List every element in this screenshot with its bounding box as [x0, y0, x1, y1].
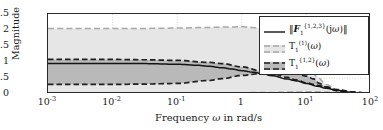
- legend-label-t1-1: T1(1)(ω): [289, 41, 321, 51]
- y-axis-label: Magnitude: [10, 0, 21, 72]
- legend-item-t1-12: T1{1,2}(ω): [263, 54, 364, 71]
- x-tick-label: 1: [213, 96, 269, 107]
- y-tick-label: 1.5: [0, 40, 9, 50]
- legend-item-f1: ‖F1{1,2,3}(jω)‖: [263, 20, 364, 37]
- x-axis-label: Frequency ω in rad/s: [47, 112, 370, 123]
- x-tick-label: 10-1: [148, 96, 204, 107]
- x-tick-label: 10-3: [19, 96, 75, 107]
- y-tick-label: 2: [0, 24, 9, 34]
- y-tick-label: 1: [0, 56, 9, 66]
- legend: ‖F1{1,2,3}(jω)‖ T1(1)(ω) T1{1,2}(ω): [259, 16, 369, 75]
- legend-item-t1-1: T1(1)(ω): [263, 37, 364, 54]
- legend-key-solid-icon: [263, 23, 286, 35]
- x-tick-label: 102: [342, 96, 383, 107]
- y-tick-label: 2.5: [0, 8, 9, 18]
- figure-bode-magnitude-plot: Magnitude 00.511.522.5 10-310-210-111011…: [0, 0, 383, 130]
- y-tick-label: 0: [0, 88, 9, 98]
- legend-key-dashed-dark-icon: [263, 57, 286, 69]
- legend-label-t1-12: T1{1,2}(ω): [289, 58, 330, 68]
- y-tick-label: 0.5: [0, 72, 9, 82]
- legend-label-f1: ‖F1{1,2,3}(jω)‖: [289, 24, 347, 34]
- legend-key-dashed-light-icon: [263, 40, 286, 52]
- x-tick-label: 101: [277, 96, 333, 107]
- x-tick-label: 10-2: [84, 96, 140, 107]
